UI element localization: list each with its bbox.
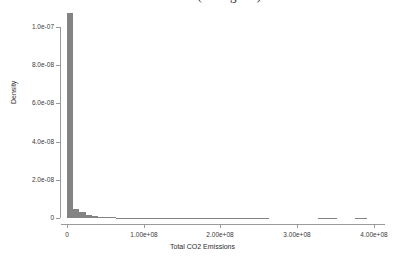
y-tick-mark xyxy=(56,65,60,66)
y-tick-label: 4.0e-08 xyxy=(0,138,54,145)
x-tick-mark xyxy=(144,224,145,228)
x-axis-title: Total CO2 Emissions xyxy=(0,243,405,250)
x-tick-mark xyxy=(374,224,375,228)
histogram-bar xyxy=(331,218,337,219)
histogram-bar xyxy=(361,218,367,219)
x-tick-mark xyxy=(297,224,298,228)
histogram-bar xyxy=(67,13,73,218)
y-tick-mark xyxy=(56,103,60,104)
y-tick-label: 2.0e-08 xyxy=(0,176,54,183)
x-tick-label: 2.00e+08 xyxy=(190,231,250,238)
x-tick-label: 0 xyxy=(37,231,97,238)
chart-figure: KDE Distribution of CO2 Emission (Histog… xyxy=(0,0,405,260)
y-axis-title: Density xyxy=(10,81,17,104)
x-tick-mark xyxy=(67,224,68,228)
y-tick-label: 1.0e-07 xyxy=(0,23,54,30)
x-tick-label: 1.00e+08 xyxy=(114,231,174,238)
y-tick-mark xyxy=(56,142,60,143)
y-tick-mark xyxy=(56,27,60,28)
y-tick-mark xyxy=(56,180,60,181)
y-tick-label: 8.0e-08 xyxy=(0,61,54,68)
y-tick-label: 6.0e-08 xyxy=(0,99,54,106)
y-tick-mark xyxy=(56,218,60,219)
histogram-bar xyxy=(263,218,269,219)
histogram-bars xyxy=(0,0,405,260)
x-tick-label: 4.00e+08 xyxy=(344,231,404,238)
y-tick-label: 0 xyxy=(0,214,54,221)
x-tick-label: 3.00e+08 xyxy=(267,231,327,238)
x-tick-mark xyxy=(220,224,221,228)
